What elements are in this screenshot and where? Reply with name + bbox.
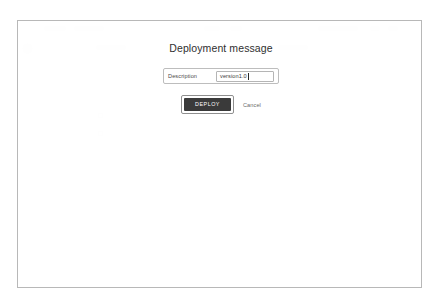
description-input[interactable]: version1.0 [216,71,274,82]
description-field-group: Description version1.0 [163,68,279,84]
page-root: Deployment message Description version1.… [0,0,440,305]
dialog-title: Deployment message [118,42,324,54]
cancel-link[interactable]: Cancel [243,102,261,108]
deployment-message-dialog: Deployment message Description version1.… [118,26,324,114]
deploy-button-focus-ring: DEPLOY [181,95,234,114]
app-window-frame: Deployment message Description version1.… [17,20,422,288]
description-label: Description [168,73,197,79]
dialog-actions: DEPLOY Cancel [118,95,324,114]
text-caret [248,73,249,80]
deploy-button[interactable]: DEPLOY [184,98,231,111]
description-input-value: version1.0 [220,73,247,79]
